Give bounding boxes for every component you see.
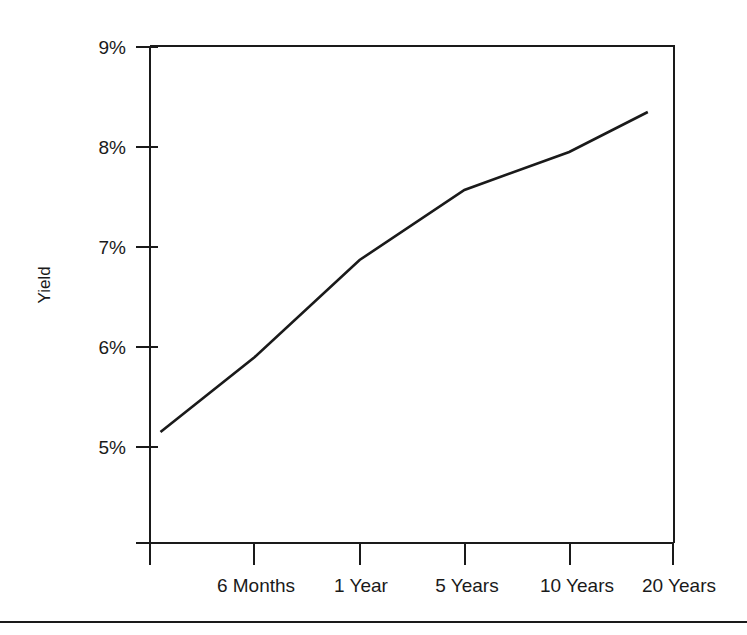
y-tick-label-6: 6%: [99, 337, 127, 358]
x-tick-label-1-year: 1 Year: [334, 575, 389, 596]
y-tick-label-7: 7%: [99, 237, 127, 258]
x-tick-label-5-years: 5 Years: [435, 575, 498, 596]
x-tick-label-6-months: 6 Months: [217, 575, 295, 596]
y-tick-label-5: 5%: [99, 437, 127, 458]
yield-curve-line: [161, 112, 648, 432]
x-tick-label-20-years: 20 Years: [642, 575, 716, 596]
y-tick-label-9: 9%: [99, 37, 127, 58]
yield-curve-figure: 9% 8% 7% 6% 5% Yield 6 Months 1 Year 5 Y…: [0, 0, 747, 635]
y-axis-title: Yield: [35, 266, 54, 303]
chart-canvas: 9% 8% 7% 6% 5% Yield 6 Months 1 Year 5 Y…: [0, 0, 747, 635]
plot-frame-top-right: [150, 46, 674, 543]
y-tick-label-8: 8%: [99, 137, 127, 158]
x-tick-label-10-years: 10 Years: [540, 575, 614, 596]
